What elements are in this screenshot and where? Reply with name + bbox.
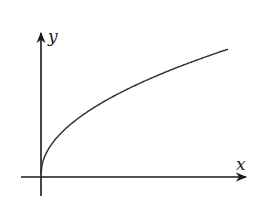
y-axis-label: y [47,26,58,46]
chart-canvas: y x [0,0,257,208]
sqrt-graph: y x [0,0,257,208]
x-axis-label: x [236,154,246,174]
curve-line [41,49,228,174]
